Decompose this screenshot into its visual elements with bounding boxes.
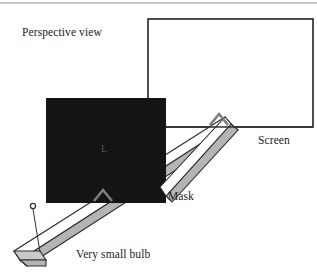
perspective-view-label: Perspective view (22, 26, 102, 39)
beam-bulb-block (14, 251, 46, 260)
bulb-icon (30, 203, 35, 208)
mask-inner-marking: L (101, 143, 107, 154)
screen-rectangle (148, 19, 313, 127)
mask-label: Mask (168, 190, 194, 202)
screen-label: Screen (258, 134, 290, 146)
perspective-view-diagram: L Perspective view Screen Mask Very smal… (0, 0, 317, 276)
very-small-bulb-label: Very small bulb (76, 248, 150, 261)
figure-root: L Perspective view Screen Mask Very smal… (0, 0, 317, 276)
scan-artifact-line (0, 2, 317, 4)
